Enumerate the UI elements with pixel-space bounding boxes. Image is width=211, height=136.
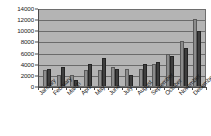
bar — [102, 58, 106, 86]
y-axis-line — [38, 9, 39, 88]
y-axis-ticks: 02000400060008000100001200014000 — [0, 9, 38, 87]
bar-group — [136, 10, 150, 86]
bar-group — [177, 10, 191, 86]
y-tick-label: 10000 — [17, 28, 34, 34]
y-tick-label: 4000 — [21, 62, 34, 68]
y-tick-mark — [35, 9, 38, 10]
y-tick-mark — [35, 20, 38, 21]
plot-area — [38, 9, 206, 87]
bar-group — [81, 10, 95, 86]
y-tick-mark — [35, 64, 38, 65]
bar — [88, 64, 92, 86]
bar-group — [149, 10, 163, 86]
bars-layer — [39, 10, 205, 86]
bar-group — [108, 10, 122, 86]
bar-group — [122, 10, 136, 86]
y-tick-mark — [35, 75, 38, 76]
bar-chart: 02000400060008000100001200014000 January… — [0, 0, 211, 136]
bar-group — [40, 10, 54, 86]
bar-group — [54, 10, 68, 86]
y-tick-mark — [35, 31, 38, 32]
y-tick-label: 8000 — [21, 39, 34, 45]
bar-group — [95, 10, 109, 86]
bar-group — [67, 10, 81, 86]
y-tick-label: 14000 — [17, 6, 34, 12]
y-tick-label: 12000 — [17, 17, 34, 23]
y-tick-mark — [35, 53, 38, 54]
x-axis-labels: JanuaryFebruaryMarchAprilMayJuneJulyAugu… — [0, 90, 211, 136]
y-tick-label: 2000 — [21, 73, 34, 79]
y-tick-label: 6000 — [21, 50, 34, 56]
y-tick-mark — [35, 42, 38, 43]
